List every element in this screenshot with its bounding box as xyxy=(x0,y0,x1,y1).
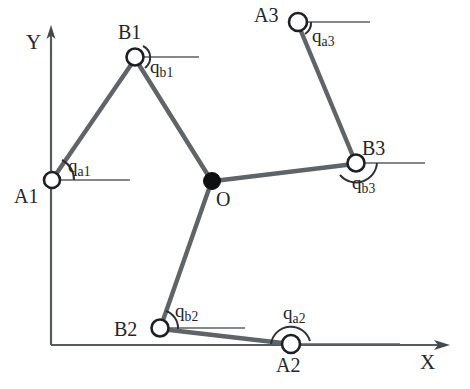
diagram-canvas xyxy=(0,0,470,389)
angle-base-qb2: q xyxy=(175,300,185,321)
x-axis-label: X xyxy=(420,352,435,373)
angle-base-qa3: q xyxy=(312,25,322,46)
angle-sub-qb3: b3 xyxy=(362,181,376,196)
coordinate-axes xyxy=(47,25,451,350)
joint-a2 xyxy=(282,335,300,353)
angle-label-qb3: qb3 xyxy=(352,173,376,196)
joint-label-b3: B3 xyxy=(362,138,385,158)
kinematic-diagram-figure: Y X A1 B1 A2 B2 A3 B3 O qa1 qb1 qa2 qb2 … xyxy=(0,0,470,389)
manipulator-links xyxy=(52,24,355,344)
joint-label-b1: B1 xyxy=(118,22,141,42)
joint-b1 xyxy=(127,49,144,66)
joint-b2 xyxy=(152,320,169,337)
angle-sub-qa3: a3 xyxy=(322,34,335,49)
joint-label-b2: B2 xyxy=(114,319,137,339)
joint-label-a2: A2 xyxy=(276,355,300,375)
angle-sub-qb2: b2 xyxy=(185,309,199,324)
joint-a3 xyxy=(289,13,307,31)
angle-sub-qa1: a1 xyxy=(78,164,91,179)
angle-sub-qa2: a2 xyxy=(293,311,306,326)
angle-label-qb2: qb2 xyxy=(175,301,199,324)
angle-base-qa2: q xyxy=(283,302,293,323)
joint-label-a1: A1 xyxy=(14,186,38,206)
angle-base-qb3: q xyxy=(352,172,362,193)
angle-base-qa1: q xyxy=(68,155,78,176)
link-b3-o xyxy=(214,164,354,181)
angle-base-qb1: q xyxy=(150,56,160,77)
angle-sub-qb1: b1 xyxy=(160,65,174,80)
angle-label-qa3: qa3 xyxy=(312,26,335,49)
angle-label-qa1: qa1 xyxy=(68,156,91,179)
y-axis-label: Y xyxy=(26,32,41,53)
joint-o-center xyxy=(204,173,221,190)
angle-label-qa2: qa2 xyxy=(283,303,306,326)
joint-a1 xyxy=(44,172,60,188)
joint-label-a3: A3 xyxy=(254,5,278,25)
joint-label-o: O xyxy=(216,189,230,209)
angle-label-qb1: qb1 xyxy=(150,57,174,80)
